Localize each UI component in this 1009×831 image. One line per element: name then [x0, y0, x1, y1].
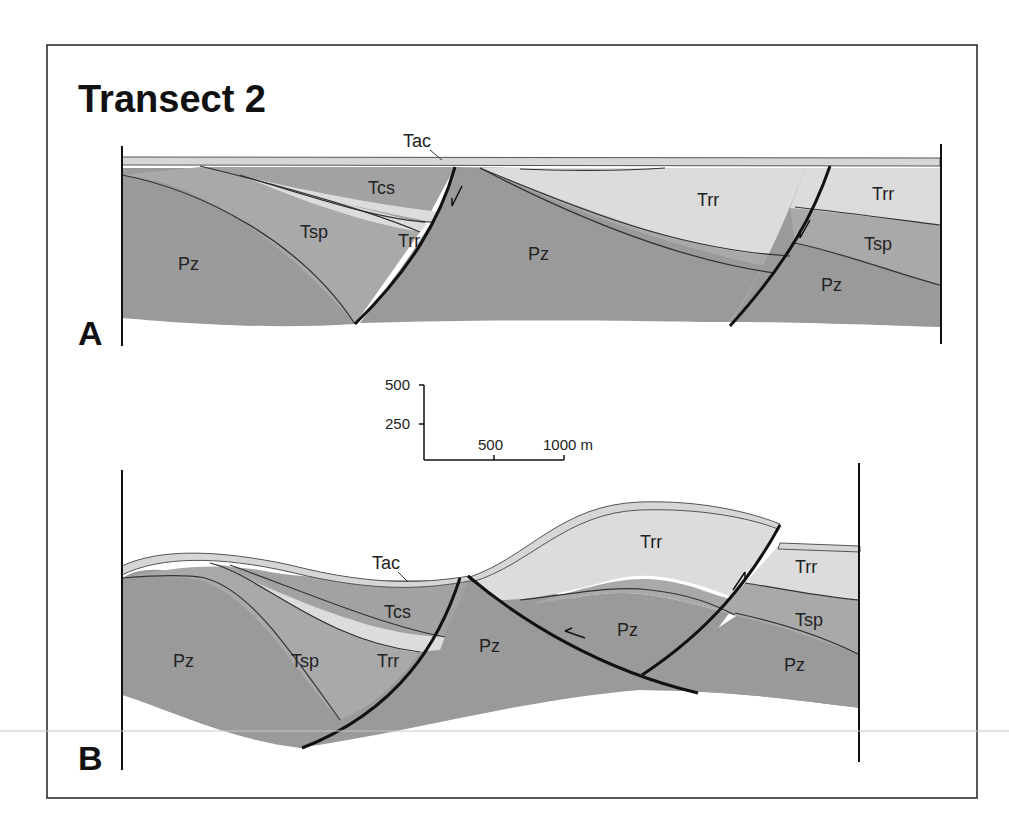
- unit-label-tcs: Tcs: [368, 178, 395, 198]
- transect-figure: Transect 2: [0, 0, 1009, 831]
- tac-unit-a: [122, 157, 940, 166]
- unit-label-trr: Trr: [697, 190, 719, 210]
- unit-label-pz: Pz: [821, 275, 842, 295]
- scale-tick-label: 1000 m: [543, 436, 593, 453]
- unit-label-pz: Pz: [617, 620, 638, 640]
- unit-label-trr: Trr: [872, 184, 894, 204]
- unit-label-tac: Tac: [372, 553, 400, 573]
- scale-tick-label: 500: [478, 436, 503, 453]
- scale-bar: 500 250 500 1000 m: [385, 376, 593, 460]
- unit-label-tsp: Tsp: [291, 651, 319, 671]
- figure-title: Transect 2: [78, 78, 266, 120]
- unit-label-tsp: Tsp: [864, 234, 892, 254]
- unit-label-pz: Pz: [178, 254, 199, 274]
- unit-label-tac: Tac: [403, 131, 431, 151]
- panel-a-cross-section: Tac Tcs Tsp Trr Pz Pz Trr Trr Tsp Pz A: [78, 131, 941, 352]
- panel-b-cross-section: Tac Tcs Tsp Trr Pz Pz Pz Trr Trr Tsp Pz …: [78, 463, 860, 777]
- unit-label-trr: Trr: [377, 651, 399, 671]
- unit-label-pz: Pz: [528, 244, 549, 264]
- panel-label-a: A: [78, 314, 103, 352]
- scale-tick-label: 500: [385, 376, 410, 393]
- unit-label-pz: Pz: [479, 636, 500, 656]
- unit-label-tsp: Tsp: [300, 222, 328, 242]
- unit-label-trr: Trr: [640, 532, 662, 552]
- unit-label-tsp: Tsp: [795, 610, 823, 630]
- scale-tick-label: 250: [385, 415, 410, 432]
- unit-label-pz: Pz: [173, 651, 194, 671]
- unit-label-tcs: Tcs: [384, 602, 411, 622]
- panel-label-b: B: [78, 739, 103, 777]
- unit-label-trr: Trr: [398, 231, 420, 251]
- unit-label-pz: Pz: [784, 655, 805, 675]
- unit-label-trr: Trr: [795, 557, 817, 577]
